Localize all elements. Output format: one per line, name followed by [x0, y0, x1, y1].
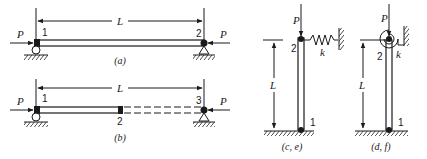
node-2: [118, 106, 123, 114]
load-label: P: [219, 28, 227, 40]
load-label: P: [16, 28, 24, 40]
node-label-2: 2: [117, 116, 123, 127]
ground-hatch: [264, 131, 314, 136]
load-label: P: [292, 14, 300, 26]
pin-support-icon: [199, 46, 209, 54]
translational-spring-icon: [304, 35, 338, 45]
length-label: L: [116, 15, 123, 27]
wall-hatch: [404, 26, 409, 46]
beam: [36, 40, 204, 46]
spring-label: k: [320, 46, 326, 58]
node-2: [386, 36, 392, 42]
node-label-1: 1: [398, 117, 404, 128]
ground-hatch: [193, 55, 215, 60]
ground-hatch: [24, 122, 48, 127]
panel-ce: P 2 1 k L (c, e): [263, 4, 344, 153]
node-label-1: 1: [42, 27, 48, 38]
node-2: [298, 36, 304, 42]
node-label-2: 2: [291, 43, 297, 54]
panel-df: P 2 k 1 L (d, f): [355, 4, 409, 153]
ground-hatch: [193, 122, 215, 127]
panel-b: L 1 P 2 3 P (b): [10, 79, 230, 144]
node-label-2: 2: [377, 51, 383, 62]
panel-a: L 1 P 2 P (a): [10, 8, 230, 67]
load-label: P: [219, 95, 227, 107]
length-label: L: [358, 79, 365, 91]
beam-solid: [36, 107, 120, 113]
node-label-3: 3: [196, 95, 202, 106]
load-label: P: [16, 95, 24, 107]
node-label-1: 1: [42, 93, 48, 104]
load-label: P: [380, 12, 388, 24]
column: [386, 40, 392, 130]
panel-caption: (a): [114, 55, 126, 67]
pin-support-icon: [199, 113, 209, 121]
panel-caption: (c, e): [282, 141, 303, 153]
panel-caption: (b): [114, 132, 126, 144]
spring-label: k: [396, 48, 402, 60]
column: [298, 38, 304, 130]
node-label-2: 2: [196, 28, 202, 39]
length-label: L: [269, 79, 276, 91]
structural-diagram: L 1 P 2 P (a) L: [0, 0, 427, 159]
ground-hatch: [355, 131, 408, 136]
roller-support-icon: [32, 113, 40, 121]
roller-support-icon: [32, 46, 40, 54]
node-label-1: 1: [310, 117, 316, 128]
length-label: L: [116, 82, 123, 94]
ground-hatch: [24, 55, 48, 60]
panel-caption: (d, f): [371, 141, 391, 153]
